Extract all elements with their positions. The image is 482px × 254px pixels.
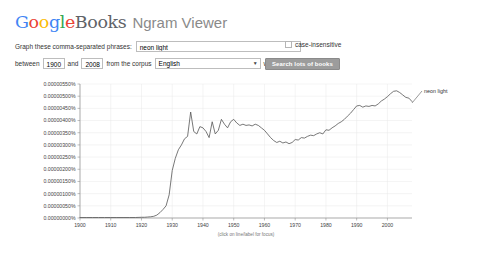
y-tick-label: 0.00000200% [43, 166, 75, 172]
logo-letter-o1: o [29, 12, 39, 32]
logo-letter-o2: o [39, 12, 49, 32]
y-tick-label: 0.00000550% [43, 81, 75, 87]
logo-letter-g: G [15, 12, 29, 32]
x-tick-label: 1900 [74, 222, 86, 228]
y-tick-label: 0.00000150% [43, 178, 75, 184]
y-tick-label: 0.00000500% [43, 93, 75, 99]
chart-series-label[interactable]: neon light [412, 88, 448, 103]
page-title: Ngram Viewer [132, 14, 227, 31]
y-axis-tick-labels: 0.00000000%0.00000050%0.00000100%0.00000… [43, 81, 75, 221]
phrases-row: Graph these comma-separated phrases: neo… [15, 41, 301, 52]
case-insensitive-label: case-insensitive [295, 41, 341, 48]
corpus-select-value: English [159, 60, 180, 67]
logo-letter-e: e [65, 12, 75, 32]
google-books-logo[interactable]: GoogleBooks [15, 12, 126, 32]
page-header: GoogleBooks Ngram Viewer [15, 12, 227, 34]
case-insensitive-checkbox[interactable] [285, 41, 292, 48]
series-leader-line [412, 91, 422, 103]
phrases-input[interactable]: neon light [136, 41, 301, 52]
chevron-down-icon: ▼ [253, 61, 258, 66]
x-tick-label: 1970 [289, 222, 301, 228]
x-tick-label: 1930 [166, 222, 178, 228]
y-tick-label: 0.00000400% [43, 117, 75, 123]
start-year-input[interactable]: 1900 [43, 58, 65, 69]
series-line[interactable] [80, 91, 412, 218]
y-tick-label: 0.00000100% [43, 191, 75, 197]
logo-letter-g2: g [49, 12, 60, 32]
x-tick-label: 2000 [382, 222, 394, 228]
logo-books-word: Books [75, 12, 127, 32]
chart-svg[interactable]: 0.00000000%0.00000050%0.00000100%0.00000… [0, 78, 482, 243]
x-tick-label: 1910 [105, 222, 117, 228]
x-tick-label: 1920 [136, 222, 148, 228]
y-tick-label: 0.00000300% [43, 142, 75, 148]
between-label: between [15, 59, 40, 69]
y-tick-label: 0.00000250% [43, 154, 75, 160]
search-button[interactable]: Search lots of books [265, 58, 340, 70]
end-year-input[interactable]: 2008 [81, 58, 103, 69]
phrases-label: Graph these comma-separated phrases: [15, 42, 132, 52]
chart-axes [78, 84, 413, 221]
x-tick-label: 1990 [351, 222, 363, 228]
x-axis-tick-labels: 1900191019201930194019501960197019801990… [74, 222, 393, 228]
corpus-label: from the corpus [106, 59, 151, 69]
ngram-chart[interactable]: 0.00000000%0.00000050%0.00000100%0.00000… [0, 78, 482, 243]
x-tick-label: 1950 [228, 222, 240, 228]
x-tick-label: 1940 [197, 222, 209, 228]
y-tick-label: 0.00000000% [43, 215, 75, 221]
y-tick-label: 0.00000450% [43, 105, 75, 111]
y-tick-label: 0.00000350% [43, 130, 75, 136]
and-label: and [68, 59, 79, 69]
chart-gridlines [80, 84, 412, 218]
y-tick-label: 0.00000050% [43, 203, 75, 209]
x-tick-label: 1980 [320, 222, 332, 228]
chart-series[interactable] [80, 91, 412, 218]
ngram-viewer-page: GoogleBooks Ngram Viewer Graph these com… [0, 0, 482, 254]
chart-focus-caption: (click on line/label for focus) [218, 232, 275, 237]
x-tick-label: 1960 [259, 222, 271, 228]
series-label[interactable]: neon light [424, 88, 448, 94]
corpus-select[interactable]: English ▼ [155, 58, 261, 69]
case-insensitive-control[interactable]: case-insensitive [285, 41, 341, 48]
